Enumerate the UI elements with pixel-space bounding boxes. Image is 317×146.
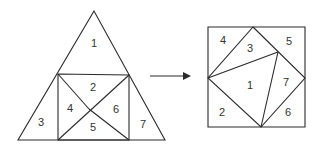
square-piece-label: 4 xyxy=(220,34,226,46)
square-piece-label: 3 xyxy=(247,42,253,54)
triangle-piece-label: 6 xyxy=(113,103,119,115)
triangle-piece-label: 4 xyxy=(67,102,73,114)
square-piece-label: 1 xyxy=(247,79,253,91)
square-piece-label: 5 xyxy=(286,35,292,47)
dissection-diagram: 1 2 3 4 5 6 7 4 3 5 1 7 2 6 xyxy=(0,0,317,146)
triangle-figure: 1 2 3 4 5 6 7 xyxy=(18,11,165,140)
triangle-piece-label: 1 xyxy=(91,37,97,49)
square-piece-label: 2 xyxy=(219,106,225,118)
triangle-piece-label: 7 xyxy=(140,118,146,130)
arrow xyxy=(150,72,191,80)
square-piece-label: 7 xyxy=(283,76,289,88)
diagonal-left xyxy=(58,74,89,109)
triangle-piece-label: 5 xyxy=(90,121,96,133)
square-figure: 4 3 5 1 7 2 6 xyxy=(208,27,305,127)
cut-line-right xyxy=(261,52,278,127)
square-piece-label: 6 xyxy=(285,106,291,118)
triangle-piece-label: 3 xyxy=(38,116,44,128)
arrow-head-icon xyxy=(183,72,191,80)
triangle-piece-label: 2 xyxy=(90,81,96,93)
cut-line-upper xyxy=(208,52,278,78)
